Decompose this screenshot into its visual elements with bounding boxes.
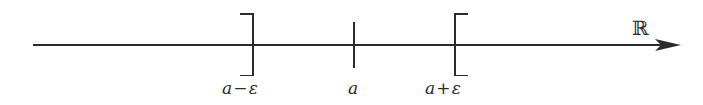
- center-label-base: a: [348, 78, 358, 98]
- real-line-epsilon-neighborhood-figure: ℝ a−ε a a+ε: [0, 0, 703, 105]
- left-label-epsilon: ε: [249, 78, 258, 98]
- right-bracket-label: a+ε: [425, 80, 461, 97]
- right-label-base: a: [425, 78, 435, 98]
- right-label-operator: +: [435, 78, 451, 98]
- right-label-epsilon: ε: [452, 78, 461, 98]
- center-tick-label: a: [348, 80, 358, 97]
- left-label-base: a: [222, 78, 232, 98]
- left-bracket-label: a−ε: [222, 80, 258, 97]
- left-label-operator: −: [232, 78, 248, 98]
- real-number-set-label: ℝ: [632, 18, 649, 38]
